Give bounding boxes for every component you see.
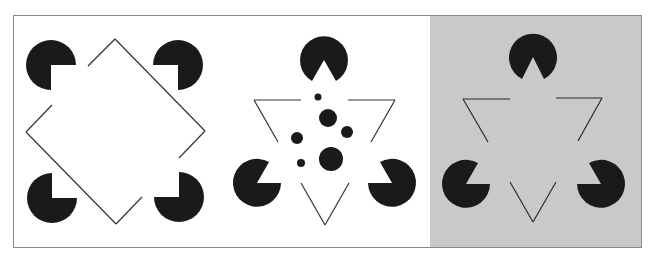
kanizsa-figure: [0, 0, 654, 256]
dot: [315, 94, 322, 101]
dot: [291, 132, 303, 144]
dot: [319, 147, 343, 171]
dot: [297, 159, 305, 167]
dot: [341, 126, 353, 138]
dot: [319, 109, 337, 127]
